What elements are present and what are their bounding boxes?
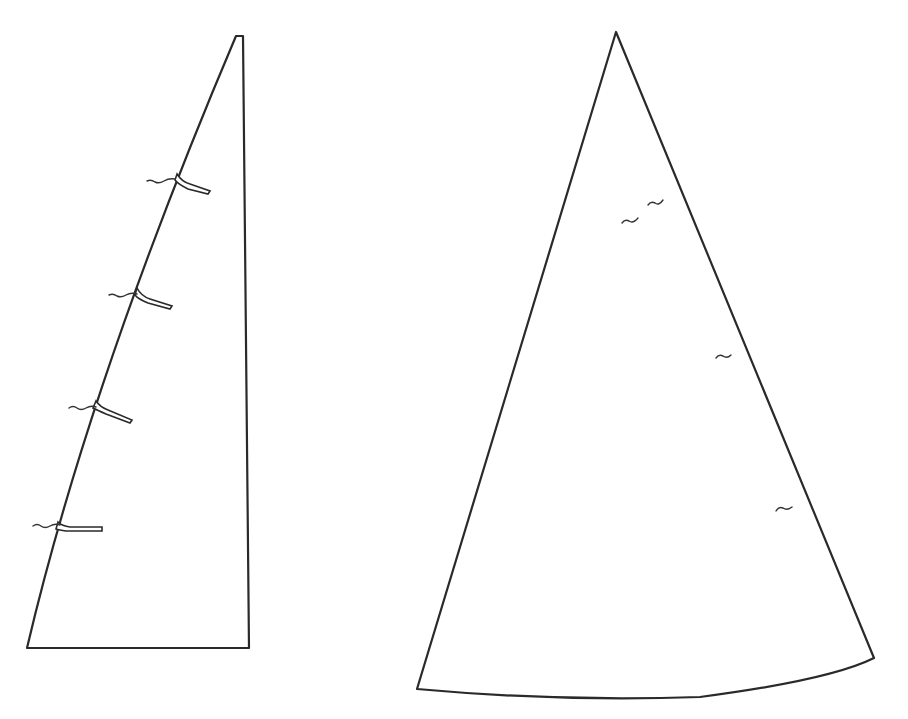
- telltale-icon: [716, 355, 731, 358]
- batten-4: [56, 522, 102, 531]
- mainsail-outline: [27, 36, 249, 648]
- telltale-icon: [776, 507, 792, 511]
- mainsail: [27, 36, 249, 648]
- telltale-icon: [147, 179, 175, 183]
- batten-3: [93, 401, 132, 423]
- jib-outline: [417, 32, 874, 698]
- mainsail-telltales: [33, 179, 175, 528]
- sails-diagram: [0, 0, 908, 719]
- telltale-icon: [622, 218, 638, 223]
- telltale-icon: [648, 200, 663, 205]
- batten-2: [135, 288, 172, 309]
- batten-1: [175, 174, 210, 194]
- mainsail-battens: [56, 174, 210, 531]
- jib-telltales: [622, 200, 792, 511]
- telltale-icon: [69, 406, 96, 409]
- jib: [417, 32, 874, 698]
